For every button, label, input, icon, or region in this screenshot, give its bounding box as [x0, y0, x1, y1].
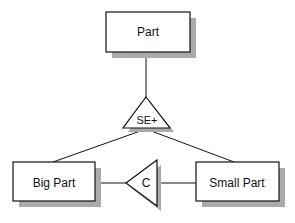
entity-small-part-label: Small Part — [209, 176, 265, 190]
entity-part-label: Part — [137, 25, 160, 39]
specialization-triangle[interactable]: SE+ — [123, 97, 174, 132]
entity-part[interactable]: Part — [106, 12, 196, 58]
line-se-to-small-part — [146, 129, 234, 162]
entity-big-part-label: Big Part — [33, 176, 76, 190]
entity-small-part[interactable]: Small Part — [196, 162, 285, 207]
line-se-to-big-part — [53, 129, 146, 162]
constraint-triangle[interactable]: C — [126, 160, 161, 211]
entity-big-part[interactable]: Big Part — [13, 162, 101, 207]
constraint-label: C — [142, 176, 151, 190]
specialization-label: SE+ — [136, 114, 157, 126]
er-diagram: Part SE+ Big Part Small Part C — [0, 0, 295, 223]
